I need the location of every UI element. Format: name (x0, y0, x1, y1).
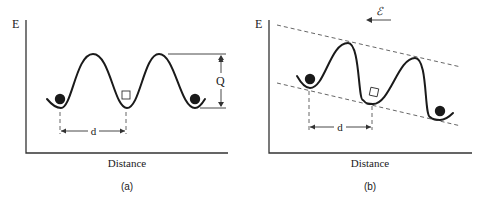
barrier-height-label: Q (216, 74, 225, 88)
axes-a (26, 20, 228, 153)
d-arrowhead-right-b (366, 125, 371, 130)
q-arrowhead-down (218, 102, 224, 107)
atom-left-a (55, 94, 65, 104)
atom-right-a (190, 94, 200, 104)
d-arrowhead-left-a (61, 129, 66, 134)
spacing-label-b: d (337, 121, 343, 133)
y-axis-label-b: E (255, 17, 262, 31)
y-axis-label-a: E (12, 17, 19, 31)
axes-b (269, 20, 472, 153)
d-arrowhead-right-a (120, 129, 125, 134)
caption-a: (a) (121, 181, 133, 192)
atom-right-b (435, 106, 445, 116)
field-arrowhead-icon (366, 17, 372, 23)
field-label: ℰ (376, 5, 384, 17)
caption-b: (b) (364, 181, 376, 192)
x-axis-label-b: Distance (351, 157, 390, 169)
panel-a: E Q d Distance (a) (12, 17, 228, 192)
q-arrowhead-up (218, 55, 224, 60)
panel-b: E ℰ d Distance (b) (255, 5, 472, 192)
atom-left-b (305, 74, 315, 84)
figure-canvas: E Q d Distance (a) E ℰ (0, 0, 479, 206)
d-arrowhead-left-b (310, 125, 315, 130)
energy-curve-a (47, 54, 205, 108)
energy-curve-b (297, 43, 453, 120)
spacing-label-a: d (91, 125, 97, 137)
upper-envelope-line (277, 25, 461, 67)
vacancy-square-b (369, 87, 378, 96)
vacancy-square-a (122, 91, 130, 99)
x-axis-label-a: Distance (108, 157, 147, 169)
